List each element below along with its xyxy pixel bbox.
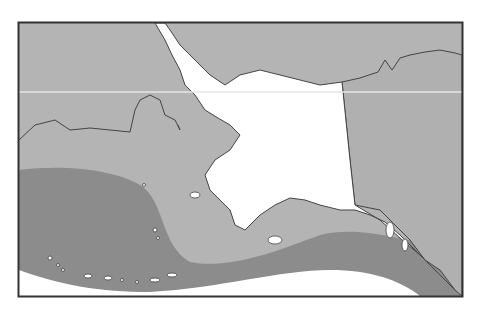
alaska-map [0, 0, 485, 309]
